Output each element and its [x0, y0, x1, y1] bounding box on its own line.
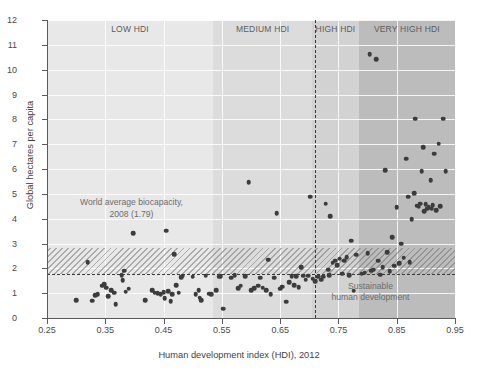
data-point [407, 260, 412, 265]
data-point [122, 269, 127, 274]
x-axis-tick-label: 0.85 [377, 325, 417, 335]
band-label-low-hdi: LOW HDI [111, 24, 149, 34]
data-point [410, 217, 415, 222]
y-axis-tick [42, 95, 47, 96]
data-point [335, 263, 340, 268]
data-point [143, 298, 148, 303]
data-point [272, 275, 277, 280]
data-point [176, 290, 181, 295]
annotation-world-average-biocapacity: World average biocapacity, 2008 (1.79) [62, 197, 202, 220]
y-axis-tick-label: 6 [0, 164, 17, 174]
data-point [344, 255, 349, 260]
y-axis-tick [42, 293, 47, 294]
plot-area: LOW HDIMEDIUM HDIHIGH HDIVERY HIGH HDIWo… [47, 20, 455, 318]
y-axis-tick-label: 4 [0, 214, 17, 224]
y-axis-tick-label: 1 [0, 288, 17, 298]
data-point [418, 201, 423, 206]
data-point [371, 267, 376, 272]
data-point [232, 273, 237, 278]
data-point [328, 214, 333, 219]
data-point [387, 269, 392, 274]
y-axis-tick-label: 9 [0, 90, 17, 100]
data-point [308, 195, 313, 200]
y-axis-title: Global hectares per capita [25, 45, 35, 265]
y-axis-tick-label: 7 [0, 139, 17, 149]
data-point [266, 257, 271, 262]
y-axis-tick-label: 11 [0, 40, 17, 50]
data-point [362, 271, 367, 276]
data-point [404, 156, 409, 161]
data-point [162, 296, 167, 301]
data-point [383, 168, 388, 173]
data-point [378, 272, 383, 277]
y-axis-tick [42, 20, 47, 21]
data-point [284, 299, 289, 304]
data-point [112, 290, 117, 295]
data-point [323, 201, 328, 206]
data-point [390, 235, 395, 240]
data-point [170, 292, 175, 297]
gridline-horizontal [47, 194, 455, 195]
data-point [368, 52, 373, 57]
y-axis-line [47, 20, 48, 319]
data-point [349, 238, 354, 243]
data-point [274, 211, 279, 216]
data-point [299, 265, 304, 270]
data-point [243, 274, 248, 279]
data-point [428, 178, 433, 183]
data-point [280, 284, 285, 289]
data-point [190, 274, 195, 279]
data-point [326, 267, 331, 272]
band-label-high-hdi: HIGH HDI [316, 24, 356, 34]
data-point [347, 273, 352, 278]
y-axis-tick [42, 144, 47, 145]
data-point [203, 273, 208, 278]
band-label-medium-hdi: MEDIUM HDI [236, 24, 289, 34]
data-point [172, 252, 177, 257]
data-point [354, 252, 359, 257]
y-axis-tick [42, 119, 47, 120]
data-point [106, 294, 111, 299]
x-axis-tick [455, 319, 456, 324]
data-point [90, 298, 95, 303]
x-axis-tick [222, 319, 223, 324]
data-point [397, 261, 402, 266]
y-axis-tick-label: 8 [0, 114, 17, 124]
gridline-horizontal [47, 70, 455, 71]
data-point [419, 169, 424, 174]
data-point [126, 286, 131, 291]
x-axis-tick [280, 319, 281, 324]
data-point [74, 298, 79, 303]
x-axis-tick-label: 0.25 [27, 325, 67, 335]
data-point [394, 205, 399, 210]
data-point [264, 288, 269, 293]
data-point [340, 271, 345, 276]
data-point [441, 117, 446, 122]
data-point [258, 275, 263, 280]
x-axis-line [47, 318, 456, 319]
data-point [86, 260, 91, 265]
data-point [196, 288, 201, 293]
data-point [399, 241, 404, 246]
data-point [168, 299, 173, 304]
data-point [443, 169, 448, 174]
data-point [238, 283, 243, 288]
data-point [401, 256, 406, 261]
data-point [436, 141, 441, 146]
data-point [113, 302, 118, 307]
x-axis-tick-label: 0.35 [85, 325, 125, 335]
data-point [421, 145, 426, 150]
y-axis-tick-label: 0 [0, 313, 17, 323]
data-point [321, 274, 326, 279]
data-point [174, 283, 179, 288]
data-point [269, 292, 274, 297]
biocapacity-hatched-band [47, 248, 455, 274]
band-label-very-high-hdi: VERY HIGH HDI [374, 24, 440, 34]
data-point [221, 306, 226, 311]
data-point [406, 195, 411, 200]
data-point [246, 180, 251, 185]
y-axis-tick [42, 219, 47, 220]
y-axis-tick [42, 194, 47, 195]
data-point [365, 251, 370, 256]
data-point [374, 57, 379, 62]
